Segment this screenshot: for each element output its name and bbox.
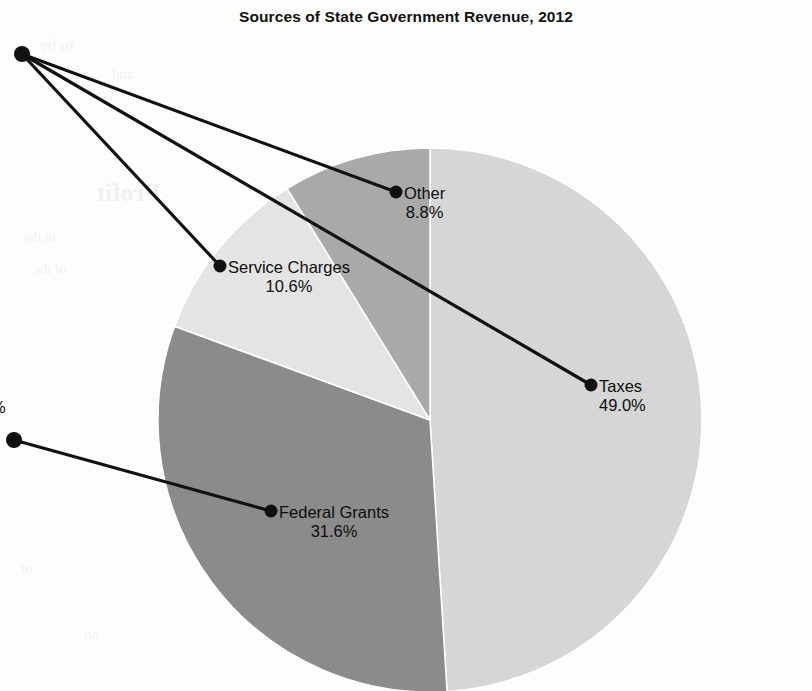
slice-label-taxes-name: Taxes [599, 377, 646, 396]
pie-chart-canvas [0, 0, 812, 691]
slice-label-other-value: 8.8% [404, 203, 445, 222]
slice-label-taxes-value: 49.0% [599, 396, 646, 415]
slice-label-taxes: Taxes 49.0% [599, 377, 646, 415]
slice-label-service-charges: Service Charges 10.6% [228, 258, 350, 296]
leader-dot-taxes [585, 379, 598, 392]
pie-chart: Sources of State Government Revenue, 201… [0, 0, 812, 691]
slice-label-federal-grants: Federal Grants 31.6% [279, 503, 389, 541]
slice-label-service-charges-name: Service Charges [228, 258, 350, 277]
chart-title: Sources of State Government Revenue, 201… [0, 8, 812, 26]
leader-origin-dot-top [14, 46, 30, 62]
pie-slices [158, 148, 702, 691]
leader-dot-service-charges [214, 260, 227, 273]
slice-label-federal-grants-name: Federal Grants [279, 503, 389, 522]
cropped-edge-percent: % [0, 398, 6, 417]
slice-label-federal-grants-value: 31.6% [279, 522, 389, 541]
leader-line-other [22, 54, 396, 192]
pie-slice-taxes[interactable] [430, 148, 702, 691]
leader-dot-other [390, 186, 403, 199]
leader-origin-dot-left [6, 432, 22, 448]
slice-label-service-charges-value: 10.6% [228, 277, 350, 296]
leader-dot-federal-grants [265, 505, 278, 518]
leader-line-service-charges [22, 54, 220, 266]
slice-label-other: Other 8.8% [404, 184, 445, 222]
slice-label-other-name: Other [404, 184, 445, 203]
